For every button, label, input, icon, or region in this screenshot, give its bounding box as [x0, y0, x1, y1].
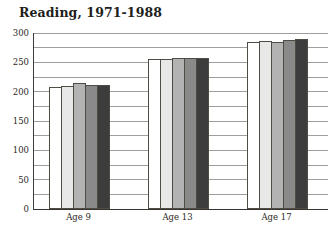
plot-area: [33, 33, 328, 210]
y-axis: 050100150200250300: [0, 33, 29, 209]
x-axis: Age 9Age 13Age 17: [33, 212, 327, 226]
x-axis-category-label-age9: Age 9: [48, 212, 109, 222]
y-axis-tick-label-50: 50: [18, 175, 29, 185]
bar-age17-1988: [295, 39, 308, 209]
y-axis-tick-label-250: 250: [13, 57, 29, 67]
y-axis-tick-label-200: 200: [13, 87, 29, 97]
bar-age13-1988: [196, 58, 209, 209]
bar-age9-1988: [97, 85, 110, 209]
bar-group-age17: [247, 33, 308, 209]
y-axis-tick-label-100: 100: [13, 145, 29, 155]
y-axis-tick-label-150: 150: [13, 116, 29, 126]
chart-title: Reading, 1971-1988: [19, 5, 162, 20]
bar-group-age13: [148, 33, 209, 209]
x-axis-category-label-age13: Age 13: [147, 212, 208, 222]
reading-trends-bar-chart: Reading, 1971-1988 050100150200250300 Ag…: [0, 0, 336, 245]
y-axis-tick-label-0: 0: [24, 204, 29, 214]
x-axis-category-label-age17: Age 17: [246, 212, 307, 222]
bar-group-age9: [49, 33, 110, 209]
y-axis-tick-label-300: 300: [13, 28, 29, 38]
